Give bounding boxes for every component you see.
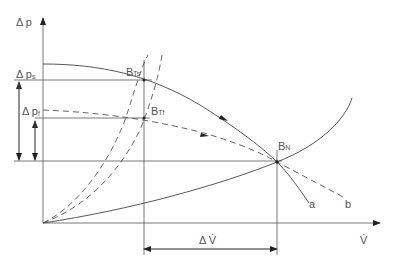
curve-b-label: b xyxy=(345,198,351,210)
system-curve xyxy=(43,98,352,223)
pump-curve-b xyxy=(43,110,345,198)
point-btf xyxy=(143,117,146,120)
bn-label: BN xyxy=(278,140,290,152)
curve-a-label: a xyxy=(309,198,316,210)
x-axis-label: V̇ xyxy=(360,234,368,246)
y-axis-label: Δ p xyxy=(16,16,32,28)
point-bn xyxy=(275,160,279,164)
delta-flow-label: Δ V̇ xyxy=(199,234,217,246)
delta-pf-label: Δ pf xyxy=(22,105,40,117)
pump-curve-a xyxy=(43,64,309,203)
bts-label: BTs xyxy=(126,66,141,78)
pump-characteristic-diagram: Δ p Δ ps Δ pf BTs BTf BN a b Δ V̇ V̇ xyxy=(0,0,395,270)
point-bts xyxy=(143,79,146,82)
btf-label: BTf xyxy=(151,105,165,117)
delta-ps-label: Δ ps xyxy=(16,68,36,80)
